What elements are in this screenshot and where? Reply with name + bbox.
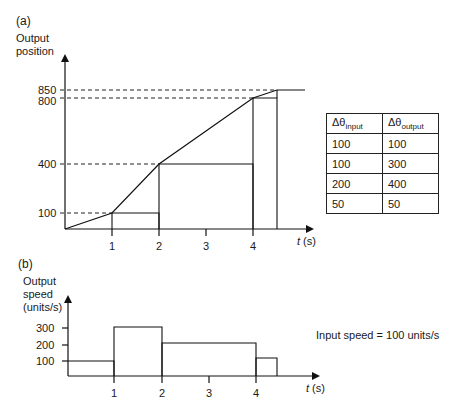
table-row: 200 400	[327, 174, 439, 194]
panel-b-xlabel: t (s)	[306, 382, 325, 395]
table-cell: 100	[383, 134, 439, 154]
table-header-row: Δθinput Δθoutput	[327, 114, 439, 134]
panel-b-ylabel-line2: speed	[23, 288, 53, 301]
panel-a-xlabel-unit: (s)	[300, 235, 316, 247]
table-cell: 300	[383, 154, 439, 174]
delta-theta-symbol: Δθ	[332, 116, 345, 128]
table-cell: 400	[383, 174, 439, 194]
panel-b-ytick-300: 300	[36, 322, 54, 334]
panel-b-ytick-200: 200	[36, 339, 54, 351]
table-cell: 50	[327, 194, 383, 214]
panel-b-axes	[62, 297, 318, 383]
panel-a-ytick-100: 100	[38, 207, 56, 219]
table-cell: 100	[327, 154, 383, 174]
table-cell: 200	[327, 174, 383, 194]
delta-theta-table: Δθinput Δθoutput 100 100 100 300 200 400…	[326, 113, 439, 214]
table-cell: 100	[327, 134, 383, 154]
panel-a-position-line	[65, 90, 305, 229]
header-sub-output: output	[401, 122, 423, 131]
panel-a-xtick-2: 2	[156, 240, 162, 252]
delta-theta-symbol: Δθ	[388, 116, 401, 128]
input-speed-annotation: Input speed = 100 units/s	[316, 329, 439, 342]
panel-a-xtick-1: 1	[109, 240, 115, 252]
panel-a-xtick-4: 4	[250, 240, 256, 252]
panel-a-xlabel: t (s)	[297, 235, 316, 248]
panel-b-xtick-3: 3	[206, 387, 212, 399]
panel-b-xlabel-unit: (s)	[309, 382, 325, 394]
table-row: 100 100	[327, 134, 439, 154]
panel-b-ytick-100: 100	[36, 355, 54, 367]
panel-a-ytick-800: 800	[38, 95, 56, 107]
table-header-input: Δθinput	[327, 114, 383, 134]
table-row: 50 50	[327, 194, 439, 214]
panel-a-dashed-refs	[60, 90, 277, 213]
panel-b-xtick-4: 4	[253, 387, 259, 399]
panel-b-ylabel-line1: Output	[23, 275, 56, 288]
panel-b-speed-steps	[68, 327, 277, 376]
panel-a-xtick-3: 3	[203, 240, 209, 252]
panel-a-ytick-400: 400	[38, 158, 56, 170]
panel-a-axes	[65, 56, 312, 236]
panel-a-step-bars	[112, 90, 277, 229]
header-sub-input: input	[345, 122, 362, 131]
panel-b-ylabel-line3: (units/s)	[23, 301, 62, 314]
panel-b-label: (b)	[18, 258, 33, 271]
table-row: 100 300	[327, 154, 439, 174]
panel-b-xtick-1: 1	[111, 387, 117, 399]
table-header-output: Δθoutput	[383, 114, 439, 134]
panel-b-xtick-2: 2	[159, 387, 165, 399]
table-cell: 50	[383, 194, 439, 214]
